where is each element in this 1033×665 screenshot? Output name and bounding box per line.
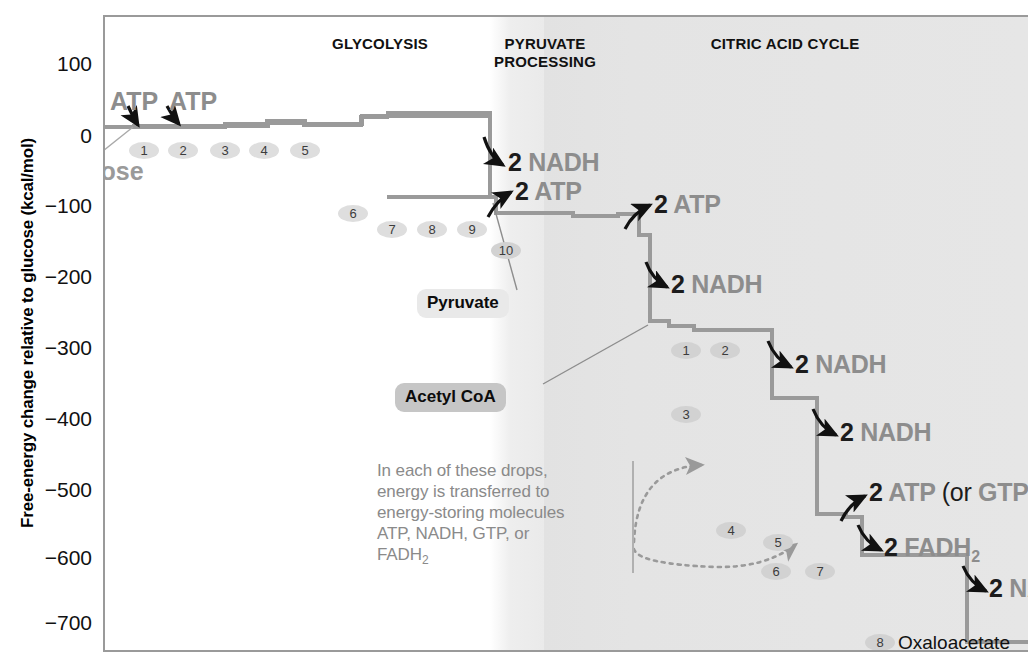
product-count: 2 [654, 190, 668, 218]
product-label-nadh-pyruvate: 2 NADH [671, 270, 762, 299]
step-badge-glycolysis-7: 7 [377, 221, 407, 238]
y-tick-label: −200 [18, 265, 92, 289]
product-name: NADH [528, 148, 599, 176]
step-badge-glycolysis-9: 9 [457, 221, 487, 238]
product-count: 2 [989, 574, 1003, 602]
product-name: ATP [888, 478, 935, 506]
product-label-nadh-citric-8: 2 NADH [989, 574, 1028, 603]
y-tick-neg300: −300 [18, 336, 92, 337]
product-count: 2 [508, 148, 522, 176]
y-tick-label: −400 [18, 407, 92, 431]
product-label-fadh2-citric-6: 2 FADH2 [884, 533, 980, 566]
energy-line-glycolysis-lower [386, 116, 490, 197]
y-tick-label: −100 [18, 194, 92, 218]
product-count: 2 [671, 270, 685, 298]
y-tick-label: 0 [18, 124, 92, 148]
product-count: 2 [795, 350, 809, 378]
molecule-box-acetyl-coa: Acetyl CoA [395, 383, 506, 412]
leader-line-acetylcoa [543, 325, 648, 384]
step-badge-citric-7: 7 [805, 563, 835, 580]
product-name: ATP [534, 177, 581, 205]
step-badge-citric-8: 8 [865, 634, 895, 651]
dotted-arrow-upper [634, 465, 701, 542]
y-tick-label: −600 [18, 546, 92, 570]
product-count: 2 [869, 478, 883, 506]
product-name: FADH [904, 533, 971, 561]
product-label-atp-citric-5: 2 ATP (or GTP) [869, 478, 1028, 507]
product-name: NADH [691, 270, 762, 298]
arrow-nadh-glyco [484, 137, 503, 165]
y-tick-label: −700 [18, 611, 92, 635]
y-tick-label: −300 [18, 336, 92, 360]
note-body: In each of these drops, energy is transf… [377, 461, 565, 564]
y-tick-label: 100 [18, 52, 92, 76]
step-badge-glycolysis-10: 10 [491, 242, 521, 259]
y-tick-neg400: −400 [18, 407, 92, 408]
product-subscript: 2 [971, 548, 980, 565]
atp-label-1: ATP [110, 87, 158, 116]
glucose-label: Glucose [103, 157, 144, 186]
product-name: NADH [1009, 574, 1028, 602]
product-count: 2 [884, 533, 898, 561]
step-badge-citric-2: 2 [710, 342, 740, 359]
product-name: ATP [673, 190, 720, 218]
y-tick-neg100: −100 [18, 194, 92, 195]
oxaloacetate-label: Oxaloacetate [898, 632, 1010, 652]
product-name: NADH [815, 350, 886, 378]
step-badge-citric-1: 1 [671, 342, 701, 359]
molecule-box-pyruvate: Pyruvate [417, 289, 509, 318]
step-badge-glycolysis-3: 3 [210, 142, 240, 159]
step-badge-glycolysis-6: 6 [338, 205, 368, 222]
product-label-nadh-citric-4: 2 NADH [840, 418, 931, 447]
explanatory-note: In each of these drops, energy is transf… [377, 460, 607, 571]
y-tick-neg700: −700 [18, 611, 92, 612]
step-badge-citric-5: 5 [763, 534, 793, 551]
note-subscript: 2 [422, 553, 429, 567]
step-badge-glycolysis-2: 2 [168, 142, 198, 159]
step-badge-glycolysis-1: 1 [129, 142, 159, 159]
y-tick-0: 0 [18, 124, 92, 125]
y-tick-neg500: −500 [18, 478, 92, 479]
y-tick-label: −500 [18, 478, 92, 502]
product-count: 2 [515, 177, 529, 205]
step-badge-citric-6: 6 [761, 563, 791, 580]
product-label-nadh-glycolysis: 2 NADH [508, 148, 599, 177]
product-count: 2 [840, 418, 854, 446]
y-tick-neg200: −200 [18, 265, 92, 266]
step-badge-glycolysis-5: 5 [290, 142, 320, 159]
energy-diagram-figure: Free-energy change relative to glucose (… [0, 0, 1033, 665]
product-label-atp-glycolysis-10: 2 ATP [654, 190, 721, 219]
plot-area: GLYCOLYSIS PYRUVATE PROCESSING CITRIC AC… [103, 15, 1028, 652]
step-badge-glycolysis-8: 8 [417, 221, 447, 238]
step-badge-citric-3: 3 [671, 406, 701, 423]
product-label-atp-glycolysis-7: 2 ATP [515, 177, 582, 206]
y-tick-neg600: −600 [18, 546, 92, 547]
atp-label-2: ATP [169, 87, 217, 116]
step-badge-citric-4: 4 [716, 522, 746, 539]
y-tick-100: 100 [18, 52, 92, 53]
product-name: NADH [860, 418, 931, 446]
product-label-nadh-citric-3: 2 NADH [795, 350, 886, 379]
product-suffix: (or GTP) [942, 478, 1028, 506]
step-badge-glycolysis-4: 4 [249, 142, 279, 159]
gtp-label: GTP [978, 478, 1028, 506]
